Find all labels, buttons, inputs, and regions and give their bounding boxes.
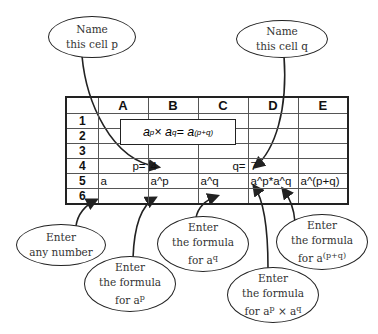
callout-enter-formula-ap-times-aq: Enter the formula for ap × aq [227, 267, 319, 323]
cell-b5[interactable]: a^p [148, 174, 198, 189]
cell-e1[interactable] [298, 114, 348, 129]
cell-c3[interactable] [198, 144, 248, 159]
row-header-1[interactable]: 1 [66, 114, 98, 129]
row-header-4[interactable]: 4 [66, 159, 98, 174]
column-header-e[interactable]: E [298, 97, 348, 114]
cell-a3[interactable] [98, 144, 148, 159]
callout-name-cell-q: Name this cell q [236, 20, 328, 58]
cell-b6[interactable] [148, 189, 198, 205]
row-header-3[interactable]: 3 [66, 144, 98, 159]
column-header-d[interactable]: D [248, 97, 298, 114]
cell-e5[interactable]: a^(p+q) [298, 174, 348, 189]
spreadsheet: A B C D E 1 2 3 4 p= 4 q= 7 5 a [65, 96, 349, 205]
column-header-a[interactable]: A [98, 97, 148, 114]
diagram: Name this cell p Name this cell q A B C … [0, 0, 378, 334]
cell-e6[interactable] [298, 189, 348, 205]
callout-name-cell-p: Name this cell p [48, 16, 136, 58]
cell-e3[interactable] [298, 144, 348, 159]
callout-enter-any-number: Enter any number [16, 224, 106, 266]
cell-b3[interactable] [148, 144, 198, 159]
cell-c6[interactable] [198, 189, 248, 205]
cell-b4[interactable]: 4 [148, 159, 198, 174]
cell-d5[interactable]: a^p*a^q [248, 174, 298, 189]
formula-text-box: ap × aq = a(p+q) [120, 119, 236, 145]
cell-a5[interactable]: a [98, 174, 148, 189]
callout-enter-formula-apq: Enter the formula for a(p+q) [276, 214, 368, 270]
callout-enter-formula-aq: Enter the formula for aq [157, 216, 249, 272]
cell-c4[interactable]: q= [198, 159, 248, 174]
cell-d2[interactable] [248, 129, 298, 144]
cell-a4[interactable]: p= [98, 159, 148, 174]
cell-d6[interactable] [248, 189, 298, 205]
row-header-6[interactable]: 6 [66, 189, 98, 205]
cell-c5[interactable]: a^q [198, 174, 248, 189]
column-header-b[interactable]: B [148, 97, 198, 114]
cell-d1[interactable] [248, 114, 298, 129]
cell-d3[interactable] [248, 144, 298, 159]
callout-enter-formula-ap: Enter the formula for ap [84, 256, 176, 312]
corner-cell[interactable] [66, 97, 98, 114]
cell-d4[interactable]: 7 [248, 159, 298, 174]
column-header-c[interactable]: C [198, 97, 248, 114]
cell-e4[interactable] [298, 159, 348, 174]
cell-e2[interactable] [298, 129, 348, 144]
cell-a6[interactable] [98, 189, 148, 205]
row-header-2[interactable]: 2 [66, 129, 98, 144]
row-header-5[interactable]: 5 [66, 174, 98, 189]
